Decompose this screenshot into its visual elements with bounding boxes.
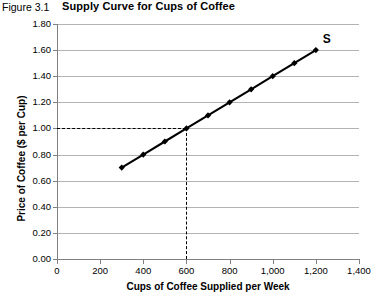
y-tick-label: 0.40 [7, 201, 51, 212]
y-tick-label: 1.40 [7, 70, 51, 81]
x-tick-mark [230, 260, 231, 264]
x-axis-title: Cups of Coffee Supplied per Week [57, 281, 359, 292]
y-tick-label: 0.20 [7, 227, 51, 238]
x-tick-mark [273, 260, 274, 264]
y-tick-label: 0.60 [7, 175, 51, 186]
x-tick-mark [143, 260, 144, 264]
x-tick-mark [186, 260, 187, 264]
x-tick-label: 1,400 [329, 265, 372, 276]
figure-number: Figure 3.1 [2, 1, 49, 13]
x-tick-mark [316, 260, 317, 264]
supply-curve-line [122, 50, 316, 168]
y-tick-label: 0.00 [7, 253, 51, 264]
figure-title: Supply Curve for Cups of Coffee [62, 0, 235, 12]
series-label-s: S [323, 32, 331, 46]
x-tick-mark [359, 260, 360, 264]
y-tick-label: 1.00 [7, 122, 51, 133]
x-tick-mark [57, 260, 58, 264]
x-tick-mark [100, 260, 101, 264]
y-tick-label: 1.80 [7, 18, 51, 29]
figure-container: Figure 3.1 Supply Curve for Cups of Coff… [0, 0, 372, 298]
y-tick-label: 1.20 [7, 96, 51, 107]
plot-area: 0.000.200.400.600.801.001.201.401.601.80… [57, 24, 359, 259]
y-tick-label: 1.60 [7, 44, 51, 55]
supply-curve [57, 24, 359, 260]
y-tick-label: 0.80 [7, 149, 51, 160]
